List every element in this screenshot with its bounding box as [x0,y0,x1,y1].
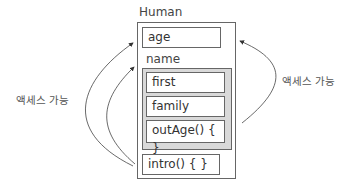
left-annotation: 액세스 가능 [16,92,69,107]
member-outage: outAge() { } [146,120,225,143]
right-annotation: 액세스 가능 [282,73,335,88]
name-title: name [146,52,180,66]
member-age: age [142,27,221,48]
left-arrow-outer [85,43,133,166]
member-family: family [146,96,225,117]
right-arrow [240,41,276,123]
member-first: first [146,72,225,93]
human-title: Human [139,5,182,19]
left-arrow-inner [107,67,135,164]
member-intro: intro() { } [142,154,220,175]
